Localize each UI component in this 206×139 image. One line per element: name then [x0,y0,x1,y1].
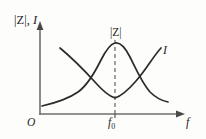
x-axis-label: f [186,116,189,128]
f0-subscript: 0 [111,122,115,131]
y-axis-arrow-icon [37,21,44,30]
current-curve [60,48,161,98]
y-axis-label-impedance: |Z|, [14,13,33,27]
y-axis-label: |Z|, I [14,14,37,27]
x-axis-arrow-icon [176,111,185,118]
y-axis-label-current: I [33,13,37,27]
current-curve-label: I [163,44,167,56]
origin-label: O [27,117,35,129]
impedance-peak-label: |Z| [110,27,122,39]
f0-tick-label: f0 [108,117,115,131]
resonance-curve-figure: |Z|, I |Z| I O f0 f [0,0,206,139]
impedance-magnitude-curve [42,43,168,106]
